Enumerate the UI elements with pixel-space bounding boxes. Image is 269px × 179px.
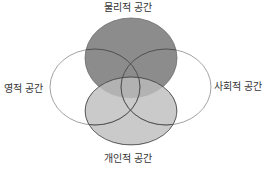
venn-diagram: 물리적 공간 영적 공간 사회적 공간 개인적 공간 <box>0 0 269 179</box>
personal-space-label: 개인적 공간 <box>104 153 152 165</box>
social-space-label: 사회적 공간 <box>214 81 262 93</box>
physical-space-label: 물리적 공간 <box>104 2 152 14</box>
spiritual-space-label: 영적 공간 <box>4 83 43 95</box>
